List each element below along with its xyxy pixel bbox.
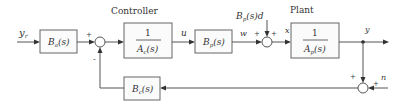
arrow-head-icon: [98, 47, 103, 53]
sum1-plus-sign: +: [86, 31, 92, 39]
svg-text:yr: yr: [18, 27, 29, 39]
block-Bc: Bc(s): [124, 77, 160, 100]
reference-signal-label: yr: [18, 27, 29, 39]
block-Ba: Ba(s): [40, 30, 77, 53]
sum3-top-plus-sign: +: [350, 73, 356, 81]
arrow-head-icon: [383, 40, 389, 45]
sum2-top-plus-sign: +: [271, 30, 277, 38]
arrow-head-icon: [34, 40, 40, 45]
svg-text:Bc(s): Bc(s): [131, 84, 154, 95]
arrow-head-icon: [361, 77, 366, 83]
arrow-head-icon: [189, 40, 195, 45]
svg-text:Ac(s): Ac(s): [136, 44, 159, 55]
wire-Bc-sum1: [100, 52, 124, 88]
w-signal-label: w: [240, 29, 247, 38]
sum2-left-plus-sign: +: [254, 30, 260, 38]
svg-text:1: 1: [312, 28, 318, 38]
sum1-minus-sign: -: [93, 55, 96, 64]
svg-text:Bp(s)d: Bp(s)d: [235, 11, 264, 23]
sum3-right-plus-sign: +: [373, 80, 379, 88]
summing-junction-1: [95, 37, 105, 47]
arrow-head-icon: [118, 40, 124, 45]
controller-label: Controller: [111, 6, 159, 16]
summing-junction-2: [262, 37, 272, 47]
block-Bp: Bp(s): [195, 30, 232, 53]
block-inverse-Ap: 1 Ap(s): [291, 23, 339, 58]
arrow-head-icon: [160, 86, 166, 91]
block-inverse-Ac: 1 Ac(s): [124, 23, 172, 58]
u-signal-label: u: [181, 28, 187, 38]
y-signal-label: y: [364, 25, 370, 34]
svg-text:Ba(s): Ba(s): [47, 37, 70, 48]
disturbance-label: Bp(s)d: [235, 11, 264, 23]
arrow-head-icon: [256, 40, 262, 45]
arrow-head-icon: [265, 31, 270, 37]
summing-junction-3: [358, 83, 368, 93]
x-signal-label: x: [285, 26, 290, 35]
arrow-head-icon: [285, 40, 291, 45]
arrow-head-icon: [89, 40, 95, 45]
block-diagram: Controller Plant yr Ba(s) + - 1 Ac(s) u …: [0, 0, 401, 107]
plant-label: Plant: [290, 5, 314, 15]
n-signal-label: n: [381, 73, 386, 82]
svg-text:1: 1: [145, 28, 151, 38]
